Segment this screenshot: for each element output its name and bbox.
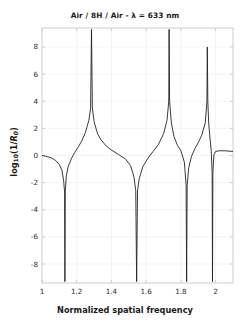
chart-figure: Air / 8H / Air - λ = 633 nm log10(1/R0) … — [0, 0, 250, 326]
y-tick-label: -8 — [20, 260, 38, 269]
x-tick-label: 1 — [30, 287, 54, 296]
y-tick-label: 4 — [20, 97, 38, 106]
x-tick-label: 2 — [204, 287, 228, 296]
x-tick-label: 1.6 — [134, 287, 158, 296]
grid-lines — [42, 28, 233, 283]
x-tick-label: 1.4 — [99, 287, 123, 296]
y-tick-label: 2 — [20, 124, 38, 133]
y-tick-label: -2 — [20, 178, 38, 187]
y-tick-label: -4 — [20, 205, 38, 214]
y-tick-label: -6 — [20, 232, 38, 241]
y-tick-label: 6 — [20, 70, 38, 79]
y-tick-label: 8 — [20, 42, 38, 51]
x-tick-label: 1.2 — [65, 287, 89, 296]
y-tick-label: 0 — [20, 151, 38, 160]
x-tick-label: 1.8 — [169, 287, 193, 296]
